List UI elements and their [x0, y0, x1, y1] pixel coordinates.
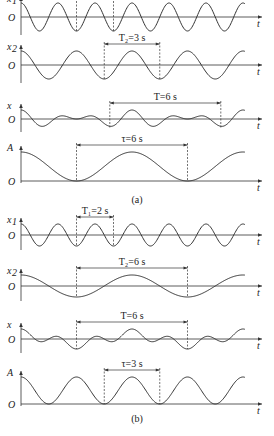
a3-waveform — [21, 110, 245, 126]
a4-waveform — [21, 152, 245, 181]
b4-origin-label: O — [8, 399, 15, 410]
b2-origin-label: O — [8, 281, 15, 292]
a2-y-arrow-icon — [19, 45, 23, 49]
b3-origin-label: O — [8, 334, 15, 345]
b1-origin-label: O — [8, 230, 15, 241]
a4-y-arrow-icon — [19, 146, 23, 150]
b2-y-arrow-icon — [19, 269, 23, 273]
a2-t-label: t — [257, 66, 260, 77]
b1-annotation-label: T₁=2 s — [82, 205, 109, 216]
a4-t-label: t — [257, 182, 260, 193]
b1-dim-arrow-right-icon — [110, 216, 114, 219]
b4-y-label: A — [6, 367, 14, 378]
caption-a: (a) — [131, 194, 142, 206]
b4-t-label: t — [257, 405, 260, 416]
a4-origin-label: O — [8, 176, 15, 187]
b3-annotation-label: T=6 s — [120, 310, 143, 321]
a4-y-label: A — [6, 142, 14, 153]
b1-dim-arrow-left-icon — [77, 216, 81, 219]
b2-annotation-label: T₂=6 s — [119, 256, 146, 267]
a3-origin-label: O — [8, 114, 15, 125]
a3-dim-arrow-right-icon — [217, 102, 221, 105]
b2-t-label: t — [257, 287, 260, 298]
a1-t-label: t — [257, 18, 260, 29]
a2-y-label-sub: 2 — [12, 43, 17, 54]
a2-dim-arrow-left-icon — [104, 43, 108, 46]
b4-dim-arrow-right-icon — [156, 369, 160, 372]
b2-dim-arrow-right-icon — [184, 267, 188, 270]
a1-origin-label: O — [8, 12, 15, 23]
a4-dim-arrow-right-icon — [184, 144, 188, 147]
b4-dim-arrow-left-icon — [104, 369, 108, 372]
a4-annotation-label: τ=6 s — [121, 133, 142, 144]
b1-y-arrow-icon — [19, 218, 23, 222]
b2-dim-arrow-left-icon — [77, 267, 81, 270]
a2-origin-label: O — [8, 60, 15, 71]
b3-y-label: x — [6, 319, 12, 330]
b4-waveform — [21, 377, 245, 404]
a3-y-arrow-icon — [19, 104, 23, 108]
b3-t-label: t — [257, 340, 260, 351]
b1-t-label: t — [257, 236, 260, 247]
b2-y-label-sub: 2 — [12, 267, 17, 278]
b4-annotation-label: τ=3 s — [121, 358, 142, 369]
a3-y-label: x — [6, 100, 12, 111]
caption-b: (b) — [131, 413, 143, 425]
b3-dim-arrow-left-icon — [77, 321, 81, 324]
a2-dim-arrow-right-icon — [156, 43, 160, 46]
a3-annotation-label: T=6 s — [154, 91, 177, 102]
a3-t-label: t — [257, 120, 260, 131]
a2-annotation-label: T₂=3 s — [119, 32, 146, 43]
b4-y-arrow-icon — [19, 371, 23, 375]
a3-dim-arrow-left-icon — [110, 102, 114, 105]
beat-diagram: (a) (b) x1OtT₁=2 sx2OtT₂=3 sxOtT=6 sAOtτ… — [0, 0, 274, 436]
b3-dim-arrow-right-icon — [184, 321, 188, 324]
a4-dim-arrow-left-icon — [77, 144, 81, 147]
b1-y-label-sub: 1 — [12, 216, 17, 227]
a1-y-label-sub: 1 — [12, 0, 17, 6]
b3-y-arrow-icon — [19, 323, 23, 327]
a1-y-arrow-icon — [19, 0, 23, 1]
